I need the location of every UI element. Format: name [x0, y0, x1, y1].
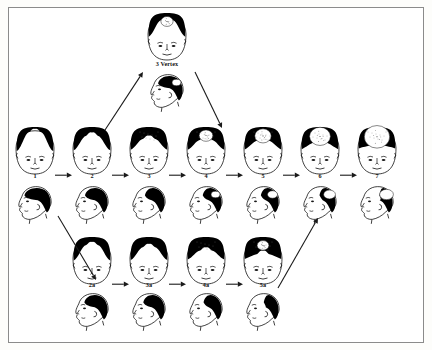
front-head-type-1 — [16, 127, 54, 174]
arrow-vertex-to-4 — [195, 72, 222, 128]
arrow-4a-to-5a — [226, 282, 243, 287]
profile-head-type-4a — [190, 294, 222, 331]
arrow-2a-to-3a — [112, 282, 129, 287]
type-label-1: 1 — [15, 172, 55, 179]
vertex-profile-head — [151, 75, 183, 112]
vertex-front-head — [148, 13, 186, 60]
arrow-6-to-7 — [340, 173, 357, 178]
front-head-type-5a — [244, 237, 282, 284]
arrow-1-to-2 — [55, 173, 72, 178]
profile-head-type-3 — [133, 187, 165, 224]
front-head-type-5 — [244, 127, 282, 174]
profile-head-type-3a — [133, 294, 165, 331]
front-head-type-6 — [301, 127, 339, 174]
front-head-type-3a — [130, 237, 168, 284]
type-label-3: 3 — [129, 172, 169, 179]
type-label-5a: 5a — [243, 281, 283, 288]
type-label-5: 5 — [243, 172, 283, 179]
vertex-label: 3 Vertex — [147, 60, 187, 67]
profile-head-type-4 — [190, 187, 222, 224]
profile-head-type-6 — [304, 187, 336, 224]
arrow-4-to-5 — [226, 173, 243, 178]
profile-head-type-5a — [247, 294, 279, 331]
type-label-3a: 3a — [129, 281, 169, 288]
profile-head-type-2 — [76, 187, 108, 224]
type-label-2a: 2a — [72, 281, 112, 288]
front-head-type-2 — [73, 127, 111, 174]
front-head-type-3 — [130, 127, 168, 174]
type-label-6: 6 — [300, 172, 340, 179]
front-head-type-4a — [187, 237, 225, 284]
arrow-3a-to-4a — [169, 282, 186, 287]
profile-head-type-1 — [19, 187, 51, 224]
type-label-4a: 4a — [186, 281, 226, 288]
arrow-5a-to-6 — [278, 218, 318, 288]
type-label-4: 4 — [186, 172, 226, 179]
arrow-2-to-vertex — [105, 72, 143, 130]
front-head-type-4 — [187, 127, 225, 174]
front-head-type-7 — [358, 126, 396, 174]
arrow-5-to-6 — [283, 173, 300, 178]
type-label-7: 7 — [357, 172, 397, 179]
norwood-hamilton-chart: 3 Vertex12345672a3a4a5a — [0, 0, 432, 350]
profile-head-type-5 — [247, 187, 279, 224]
arrow-3-to-4 — [169, 173, 186, 178]
arrow-2-to-3 — [112, 173, 129, 178]
profile-head-type-7 — [361, 187, 394, 224]
type-label-2: 2 — [72, 172, 112, 179]
profile-head-type-2a — [76, 294, 108, 331]
